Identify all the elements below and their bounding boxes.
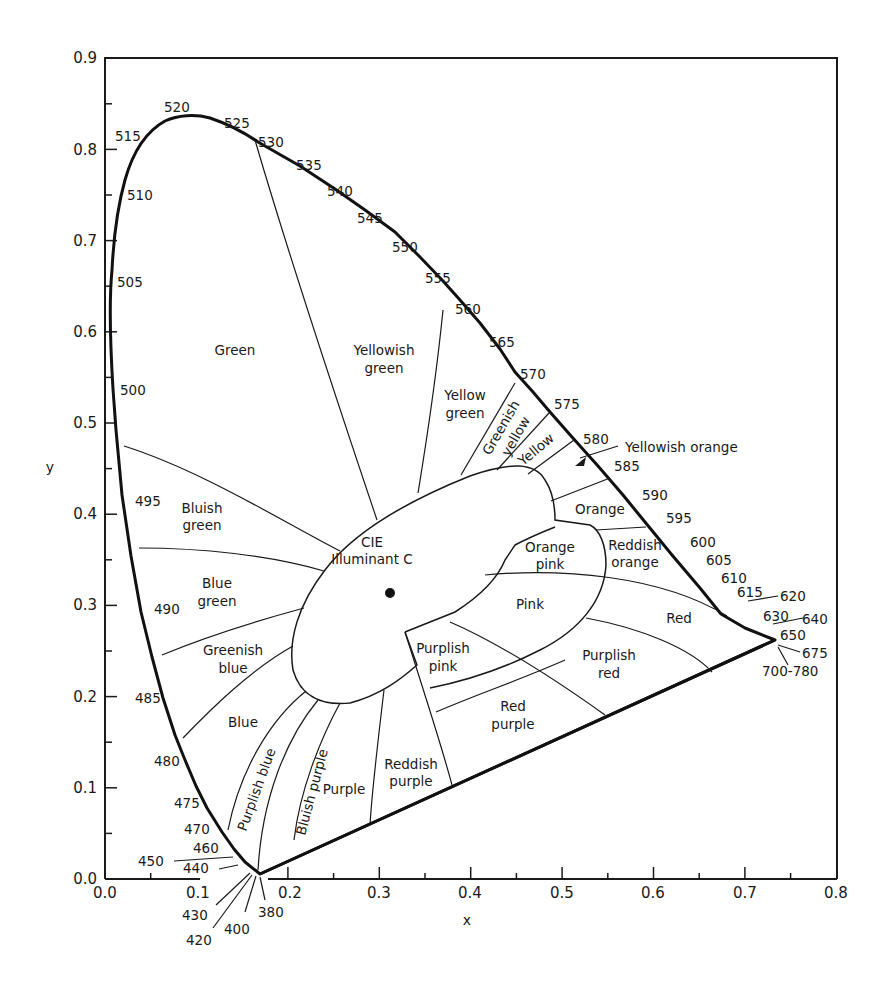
cie-chromaticity-diagram: 0.0 0.1 0.2 0.3 0.4 0.5 0.6 0.7 0.8 0.9 … <box>0 0 887 992</box>
plot-frame <box>105 58 837 879</box>
wavelength-label: 420 <box>186 932 212 948</box>
region-label-purplish-pink: pink <box>429 658 458 674</box>
region-label-greenish-blue: blue <box>218 660 247 676</box>
wavelength-label: 490 <box>154 601 180 617</box>
region-label-yellowish-orange: Yellowish orange <box>624 439 738 455</box>
wavelength-label: 565 <box>489 334 515 350</box>
wavelength-label: 430 <box>182 907 208 923</box>
wavelength-labels: 380 400 420 430 440 450 460 470 475 480 … <box>115 99 828 948</box>
x-tick-label: 0.8 <box>824 884 848 902</box>
wavelength-label: 555 <box>425 270 451 286</box>
region-label-reddish-purple: purple <box>389 773 432 789</box>
wavelength-label: 615 <box>737 584 763 600</box>
y-tick-label: 0.8 <box>73 141 97 159</box>
wavelength-label: 545 <box>357 210 383 226</box>
wavelength-label: 510 <box>127 187 153 203</box>
x-tick-label: 0.7 <box>733 884 757 902</box>
wavelength-label: 560 <box>455 301 481 317</box>
purple-boundary-line <box>260 640 775 874</box>
wavelength-label: 470 <box>184 821 210 837</box>
y-axis-tick-labels: 0.0 0.1 0.2 0.3 0.4 0.5 0.6 0.7 0.8 0.9 <box>73 49 97 888</box>
region-label-red-purple: purple <box>491 716 534 732</box>
x-tick-label: 0.2 <box>278 884 302 902</box>
y-tick-label: 0.2 <box>73 688 97 706</box>
y-tick-label: 0.5 <box>73 414 97 432</box>
wavelength-label: 630 <box>763 608 789 624</box>
wavelength-label: 380 <box>258 904 284 920</box>
wavelength-label: 400 <box>224 921 250 937</box>
x-axis-label: x <box>463 912 471 928</box>
y-tick-label: 0.9 <box>73 49 97 67</box>
region-label-reddish-orange: Reddish <box>608 537 662 553</box>
wavelength-label: 480 <box>154 753 180 769</box>
region-label-bluish-green: Bluish <box>182 500 223 516</box>
wavelength-label: 500 <box>120 382 146 398</box>
y-tick-label: 0.3 <box>73 596 97 614</box>
region-label-yellowish-green: green <box>365 360 404 376</box>
wavelength-label: 570 <box>520 366 546 382</box>
wavelength-label: 675 <box>802 645 828 661</box>
wavelength-label: 605 <box>706 552 732 568</box>
wavelength-leaders <box>174 446 803 928</box>
wavelength-label: 520 <box>164 99 190 115</box>
illuminant-label: CIE <box>361 534 383 550</box>
wavelength-label: 440 <box>183 860 209 876</box>
region-label-yellow-green: Yellow <box>443 387 486 403</box>
region-label-purplish-red: red <box>598 665 620 681</box>
x-tick-label: 0.4 <box>458 884 482 902</box>
wavelength-label: 640 <box>802 611 828 627</box>
wavelength-label: 600 <box>690 534 716 550</box>
region-label-blue: Blue <box>228 714 258 730</box>
wavelength-label: 620 <box>780 588 806 604</box>
wavelength-label: 535 <box>296 157 322 173</box>
y-tick-label: 0.1 <box>73 779 97 797</box>
region-label-orange-pink: pink <box>536 556 565 572</box>
y-axis-ticks <box>105 104 117 834</box>
region-label-orange-pink: Orange <box>525 539 575 555</box>
y-tick-label: 0.4 <box>73 505 97 523</box>
wavelength-label: 650 <box>780 627 806 643</box>
wavelength-label: 460 <box>193 840 219 856</box>
y-tick-label: 0.7 <box>73 232 97 250</box>
wavelength-label: 515 <box>115 128 141 144</box>
x-tick-label: 0.5 <box>550 884 574 902</box>
region-label-reddish-orange: orange <box>611 554 659 570</box>
y-tick-label: 0.6 <box>73 323 97 341</box>
region-label-green: Green <box>215 342 256 358</box>
region-label-blue-green: green <box>198 593 237 609</box>
region-label-greenish-blue: Greenish <box>203 642 263 658</box>
region-label-blue-green: Blue <box>202 575 232 591</box>
wavelength-label: 575 <box>554 396 580 412</box>
wavelength-label: 530 <box>258 134 284 150</box>
y-axis-label: y <box>46 459 54 475</box>
region-label-reddish-purple: Reddish <box>384 756 438 772</box>
region-label-pink: Pink <box>516 596 544 612</box>
spectral-locus <box>110 116 775 874</box>
region-label-red-purple: Red <box>500 698 526 714</box>
x-axis-tick-labels: 0.0 0.1 0.2 0.3 0.4 0.5 0.6 0.7 0.8 <box>93 884 848 902</box>
wavelength-label: 580 <box>583 431 609 447</box>
region-labels: Green Yellowish green Yellow green Green… <box>182 342 738 837</box>
region-label-purplish-pink: Purplish <box>416 640 470 656</box>
region-label-orange: Orange <box>575 501 625 517</box>
wavelength-label: 505 <box>117 274 143 290</box>
wavelength-label: 585 <box>614 458 640 474</box>
white-point-dot <box>385 588 395 598</box>
x-tick-label: 0.0 <box>93 884 117 902</box>
illuminant-label: Illuminant C <box>331 551 412 567</box>
wavelength-label: 540 <box>327 183 353 199</box>
region-label-purple: Purple <box>323 781 366 797</box>
region-label-red: Red <box>666 610 692 626</box>
x-axis-ticks <box>151 867 791 879</box>
wavelength-label: 450 <box>138 853 164 869</box>
wavelength-label: 525 <box>224 115 250 131</box>
wavelength-label: 700-780 <box>762 663 818 679</box>
region-label-yellow-green: green <box>446 405 485 421</box>
wavelength-label: 590 <box>642 487 668 503</box>
wavelength-label: 595 <box>666 510 692 526</box>
x-tick-label: 0.3 <box>367 884 391 902</box>
wavelength-label: 485 <box>135 690 161 706</box>
region-label-yellowish-green: Yellowish <box>353 342 415 358</box>
region-label-purplish-red: Purplish <box>582 647 636 663</box>
x-tick-label: 0.6 <box>641 884 665 902</box>
